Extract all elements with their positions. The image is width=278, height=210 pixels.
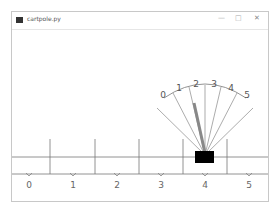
arc-label-4: 4 (228, 83, 234, 93)
angle-rays (157, 85, 253, 155)
arc-label-2: 2 (193, 79, 199, 89)
position-label-4: 4 (202, 180, 208, 190)
position-label-1: 1 (70, 180, 76, 190)
arc-label-3: 3 (211, 79, 217, 89)
cart (195, 151, 214, 163)
arc-label-1: 1 (176, 83, 182, 93)
arc-label-0: 0 (160, 90, 166, 100)
position-label-5: 5 (246, 180, 252, 190)
cartpole-canvas: 0 1 2 3 4 5 0 1 2 3 4 5 (0, 0, 278, 210)
position-label-3: 3 (158, 180, 164, 190)
position-label-2: 2 (114, 180, 120, 190)
position-label-0: 0 (26, 180, 32, 190)
arc-label-5: 5 (244, 90, 250, 100)
